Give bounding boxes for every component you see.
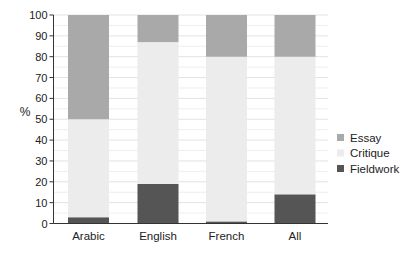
legend: EssayCritiqueFieldwork	[337, 132, 399, 175]
bar-segment-critique	[275, 57, 316, 195]
legend-swatch	[337, 165, 344, 172]
y-tick-label: 20	[35, 176, 47, 188]
bar-segment-essay	[68, 15, 109, 119]
x-tick-label: French	[209, 230, 245, 242]
bar-arabic	[68, 15, 109, 224]
y-tick-label: 70	[35, 72, 47, 84]
bar-segment-essay	[275, 15, 316, 57]
y-tick-label: 0	[41, 218, 47, 230]
bar-all	[275, 15, 316, 224]
y-axis-ticks: 0102030405060708090100	[29, 9, 53, 230]
legend-swatch	[337, 134, 344, 141]
stacked-bar-chart: 0102030405060708090100 ArabicEnglishFren…	[0, 0, 415, 253]
bar-segment-critique	[206, 57, 247, 222]
x-tick-label: All	[289, 230, 302, 242]
y-tick-label: 90	[35, 30, 47, 42]
bar-segment-fieldwork	[138, 184, 179, 224]
y-tick-label: 50	[35, 113, 47, 125]
legend-item-critique: Critique	[337, 147, 390, 159]
legend-item-essay: Essay	[337, 132, 382, 144]
x-tick-label: English	[139, 230, 177, 242]
bar-segment-essay	[206, 15, 247, 57]
y-tick-label: 40	[35, 134, 47, 146]
bar-segment-critique	[68, 119, 109, 217]
y-tick-label: 30	[35, 155, 47, 167]
y-axis-label: %	[20, 105, 31, 119]
legend-label: Critique	[350, 147, 390, 159]
x-tick-label: Arabic	[72, 230, 105, 242]
y-tick-label: 100	[29, 9, 47, 21]
bar-segment-essay	[138, 15, 179, 42]
y-tick-label: 10	[35, 197, 47, 209]
bar-segment-critique	[138, 42, 179, 184]
legend-label: Fieldwork	[350, 163, 399, 175]
legend-swatch	[337, 150, 344, 157]
x-axis-labels: ArabicEnglishFrenchAll	[72, 230, 301, 242]
y-tick-label: 80	[35, 51, 47, 63]
legend-item-fieldwork: Fieldwork	[337, 163, 399, 175]
bar-english	[138, 15, 179, 224]
legend-label: Essay	[350, 132, 382, 144]
y-tick-label: 60	[35, 92, 47, 104]
bar-segment-fieldwork	[68, 217, 109, 223]
bar-french	[206, 15, 247, 224]
bar-segment-fieldwork	[275, 194, 316, 223]
